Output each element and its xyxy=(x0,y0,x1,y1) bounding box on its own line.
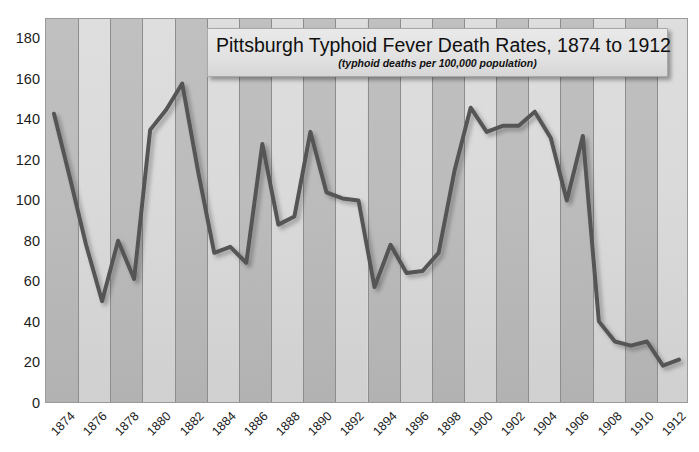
y-axis: 180160140120100806040200 xyxy=(0,0,40,452)
x-axis-tick-label: 1882 xyxy=(177,409,207,439)
x-axis-tick-label: 1878 xyxy=(112,409,142,439)
y-axis-tick-label: 140 xyxy=(2,112,40,127)
x-axis-tick-label: 1910 xyxy=(627,409,657,439)
x-axis-tick-label: 1904 xyxy=(530,409,560,439)
y-axis-tick-label: 180 xyxy=(2,31,40,46)
x-axis: 1874187618781880188218841886188818901892… xyxy=(45,403,688,452)
x-axis-tick-label: 1908 xyxy=(595,409,625,439)
chart-subtitle: (typhoid deaths per 100,000 population) xyxy=(216,57,659,69)
chart-title-box: Pittsburgh Typhoid Fever Death Rates, 18… xyxy=(207,28,668,77)
y-axis-tick-label: 160 xyxy=(2,72,40,87)
x-axis-tick-label: 1874 xyxy=(48,409,78,439)
y-axis-tick-label: 100 xyxy=(2,193,40,208)
x-axis-tick-label: 1890 xyxy=(305,409,335,439)
x-axis-tick-label: 1884 xyxy=(209,409,239,439)
typhoid-death-rate-chart: 180160140120100806040200 Pittsburgh Typh… xyxy=(0,0,699,452)
y-axis-tick-label: 60 xyxy=(2,274,40,289)
x-axis-tick-label: 1894 xyxy=(370,409,400,439)
x-axis-tick-label: 1888 xyxy=(273,409,303,439)
x-axis-tick-label: 1898 xyxy=(434,409,464,439)
x-axis-tick-label: 1912 xyxy=(659,409,689,439)
x-axis-tick-label: 1906 xyxy=(563,409,593,439)
x-axis-tick-label: 1880 xyxy=(145,409,175,439)
y-axis-tick-label: 20 xyxy=(2,355,40,370)
y-axis-tick-label: 40 xyxy=(2,315,40,330)
x-axis-tick-label: 1902 xyxy=(498,409,528,439)
x-axis-tick-label: 1892 xyxy=(338,409,368,439)
y-axis-tick-label: 120 xyxy=(2,153,40,168)
y-axis-tick-label: 80 xyxy=(2,234,40,249)
y-axis-tick-label: 0 xyxy=(2,396,40,411)
x-axis-tick-label: 1896 xyxy=(402,409,432,439)
page-title: Pittsburgh Typhoid Fever Death Rates, 18… xyxy=(216,34,659,56)
x-axis-tick-label: 1886 xyxy=(241,409,271,439)
x-axis-tick-label: 1900 xyxy=(466,409,496,439)
x-axis-tick-label: 1876 xyxy=(80,409,110,439)
